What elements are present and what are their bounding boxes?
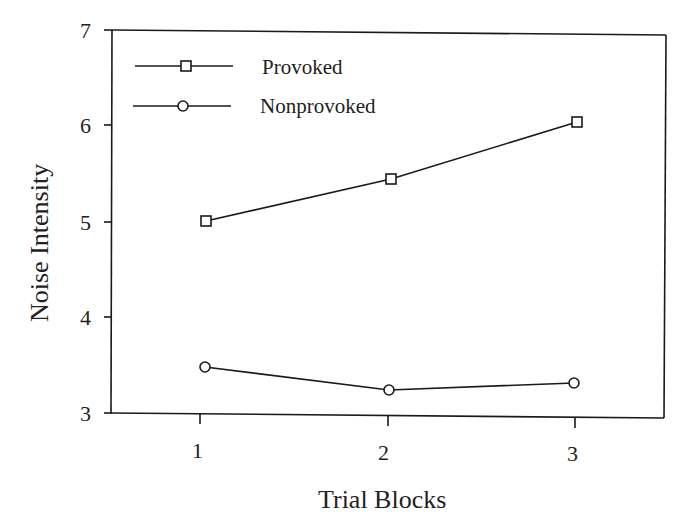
y-tick-7: 7	[80, 18, 91, 43]
legend-item-nonprovoked: Nonprovoked	[133, 94, 376, 118]
chart-root: 7 6 5 4 3 1 2 3 Trial Blocks Noise Inten…	[0, 0, 690, 531]
data-point	[201, 216, 211, 226]
data-point	[384, 385, 394, 395]
y-axis-title: Noise Intensity	[25, 164, 54, 322]
data-point	[200, 362, 210, 372]
legend-label-provoked: Provoked	[262, 55, 343, 79]
y-tick-5: 5	[80, 210, 91, 235]
y-tick-labels: 7 6 5 4 3	[80, 18, 91, 426]
series-provoked	[201, 117, 582, 226]
y-tick-3: 3	[80, 401, 91, 426]
data-point	[386, 174, 396, 184]
data-point	[569, 378, 579, 388]
series-nonprovoked	[200, 362, 579, 395]
x-tick-2: 2	[378, 440, 389, 465]
x-tick-labels: 1 2 3	[192, 438, 578, 466]
y-tick-6: 6	[80, 113, 91, 138]
legend-item-provoked: Provoked	[135, 55, 343, 79]
plot-frame	[111, 30, 666, 418]
legend: Provoked Nonprovoked	[133, 55, 376, 118]
top-border	[112, 30, 666, 35]
x-tick-3: 3	[567, 441, 578, 466]
right-border	[664, 35, 666, 418]
square-marker-icon	[181, 61, 191, 71]
x-axis-title: Trial Blocks	[318, 485, 446, 514]
legend-label-nonprovoked: Nonprovoked	[260, 94, 376, 118]
data-point	[572, 117, 582, 127]
x-tick-1: 1	[192, 438, 203, 463]
circle-marker-icon	[178, 101, 188, 111]
y-tick-4: 4	[80, 305, 91, 330]
